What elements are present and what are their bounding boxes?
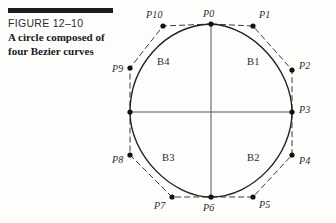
bezier-circle-diagram: P0P1P2P3P4P5P6P7P8P9P10 B1B2B3B4 (0, 0, 336, 223)
diagram-svg (0, 0, 336, 223)
point-marker-p1 (250, 23, 255, 28)
curve-label-b3: B3 (162, 152, 175, 163)
point-marker-p6 (208, 194, 213, 199)
point-label-p7: P7 (154, 200, 166, 211)
point-label-p5: P5 (259, 199, 271, 210)
curve-label-b1: B1 (247, 56, 260, 67)
point-label-p8: P8 (112, 154, 124, 165)
point-marker-p4 (289, 152, 294, 157)
bezier-curve-b4 (130, 24, 211, 112)
point-label-p9: P9 (112, 63, 124, 74)
curve-label-b2: B2 (247, 152, 260, 163)
bezier-curve-b1 (211, 24, 292, 112)
point-marker-p9 (127, 65, 132, 70)
point-label-p4: P4 (299, 155, 311, 166)
point-marker-p0 (208, 21, 213, 26)
point-marker-p5 (250, 194, 255, 199)
point-marker-p2 (289, 67, 294, 72)
point-marker-p10 (160, 23, 165, 28)
point-label-p0: P0 (203, 8, 215, 19)
curve-label-b4: B4 (157, 56, 170, 67)
point-marker-p8 (127, 152, 132, 157)
point-marker-p9-anchor (127, 109, 132, 114)
point-label-p10: P10 (146, 9, 163, 20)
point-marker-p7 (169, 194, 174, 199)
figure-page: FIGURE 12–10 A circle composed of four B… (0, 0, 336, 223)
point-label-p2: P2 (299, 60, 311, 71)
point-label-p1: P1 (259, 9, 271, 20)
point-label-p6: P6 (203, 202, 215, 213)
point-label-p3: P3 (299, 104, 311, 115)
point-marker-p3 (289, 109, 294, 114)
